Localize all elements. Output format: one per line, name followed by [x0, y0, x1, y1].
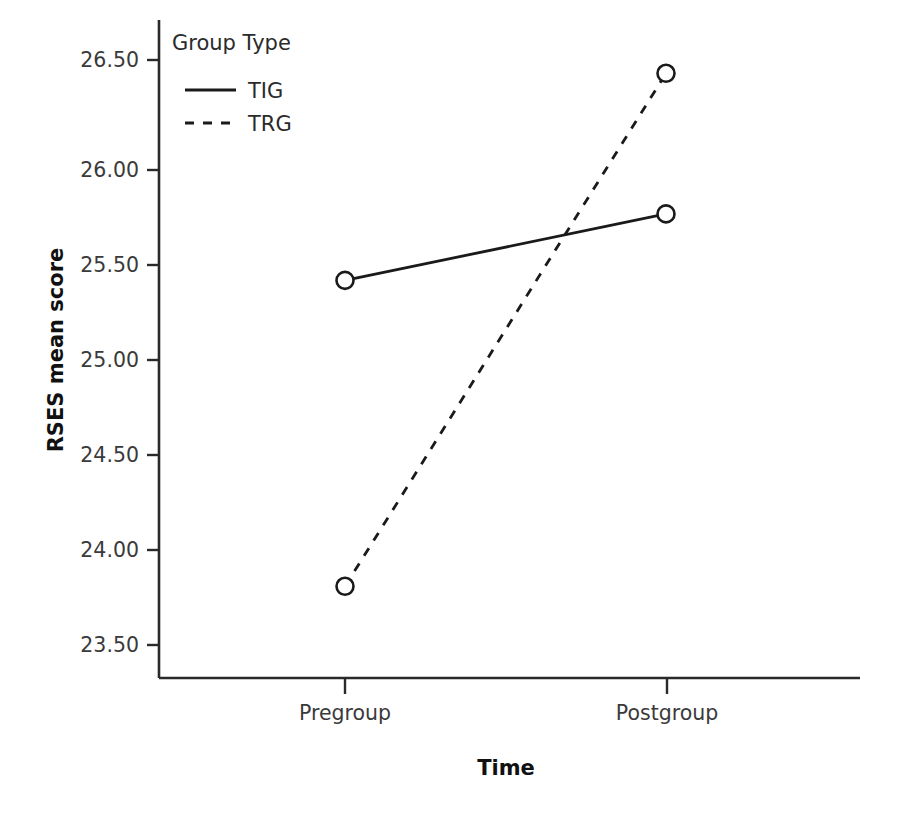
chart-figure: 26.50 26.00 25.50 25.00 24.50 24.00 23.5…: [0, 0, 899, 816]
series-trg-point-pregroup[interactable]: [337, 578, 354, 595]
x-tick-label-pregroup: Pregroup: [299, 701, 391, 725]
y-tick-label-25-50: 25.50: [80, 253, 139, 277]
series-tig-point-postgroup[interactable]: [658, 205, 675, 222]
legend-title: Group Type: [172, 31, 291, 55]
series-tig-point-pregroup[interactable]: [337, 272, 354, 289]
y-tick-label-25-00: 25.00: [80, 348, 139, 372]
series-trg-point-postgroup[interactable]: [658, 65, 675, 82]
x-axis-title: Time: [477, 756, 535, 780]
y-tick-label-24-00: 24.00: [80, 538, 139, 562]
y-tick-label-26-00: 26.00: [80, 158, 139, 182]
legend-label-tig: TIG: [247, 79, 283, 103]
legend-label-trg: TRG: [247, 112, 292, 136]
y-tick-label-23-50: 23.50: [80, 633, 139, 657]
chart-background: [0, 0, 899, 816]
y-tick-label-26-50: 26.50: [80, 48, 139, 72]
y-axis-title: RSES mean score: [44, 248, 68, 453]
x-tick-label-postgroup: Postgroup: [616, 701, 718, 725]
y-tick-label-24-50: 24.50: [80, 443, 139, 467]
line-chart-canvas: 26.50 26.00 25.50 25.00 24.50 24.00 23.5…: [0, 0, 899, 816]
